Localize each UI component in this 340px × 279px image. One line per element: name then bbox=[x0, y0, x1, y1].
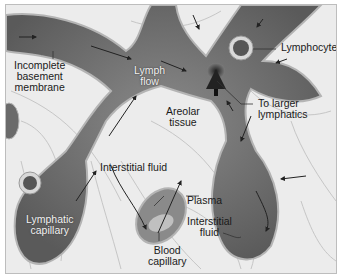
label-areolar-tissue: Areolar tissue bbox=[166, 106, 200, 128]
label-lymph-flow: Lymph flow bbox=[134, 65, 165, 87]
label-lymphocyte: Lymphocyte bbox=[281, 42, 337, 53]
label-blood-capillary: Blood capillary bbox=[148, 245, 187, 267]
blood-capillary-shape bbox=[126, 179, 196, 253]
label-interstitial-fluid-right: Interstitial fluid bbox=[187, 216, 232, 238]
label-interstitial-fluid-top: Interstitial fluid bbox=[100, 162, 167, 173]
label-to-larger-lymphatics: To larger lymphatics bbox=[258, 98, 308, 120]
label-incomplete-basement-membrane: Incomplete basement membrane bbox=[14, 60, 65, 93]
diagram-frame: Incomplete basement membrane Lymph flow … bbox=[5, 4, 337, 274]
label-plasma: Plasma bbox=[187, 195, 222, 206]
label-lymphatic-capillary: Lymphatic capillary bbox=[26, 214, 73, 236]
